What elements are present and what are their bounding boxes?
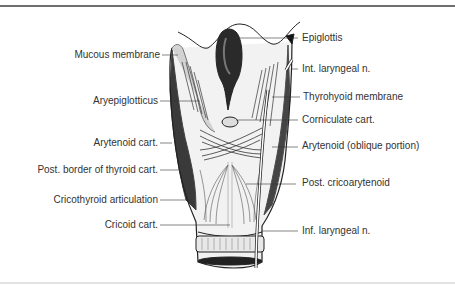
label-post-border-thyroid-cart: Post. border of thyroid cart. [37,164,158,176]
label-thyrohyoid-membrane: Thyrohyoid membrane [303,91,403,103]
label-aryepiglotticus: Aryepiglotticus [93,95,158,107]
label-mucous-membrane: Mucous membrane [74,49,160,61]
label-cricothyroid-articulation: Cricothyroid articulation [54,194,159,206]
label-inf-laryngeal-n: Inf. laryngeal n. [302,225,370,237]
label-cricoid-cart: Cricoid cart. [105,219,158,231]
label-epiglottis: Epiglottis [302,32,343,44]
label-corniculate-cart: Corniculate cart. [302,114,375,126]
label-post-cricoarytenoid: Post. cricoarytenoid [302,177,390,189]
label-arytenoid-cart: Arytenoid cart. [94,137,158,149]
label-int-laryngeal-n: Int. laryngeal n. [302,63,370,75]
label-arytenoid-oblique-portion: Arytenoid (oblique portion) [302,140,419,152]
